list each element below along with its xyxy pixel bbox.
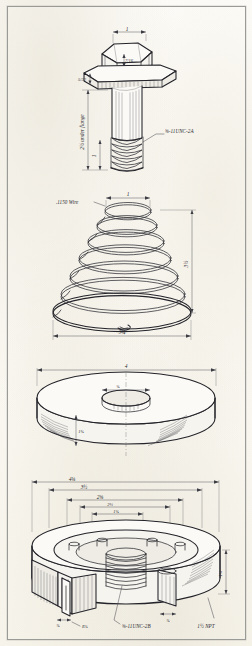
threaded-hub-drawing: 4⅛ 3½ 2⅝ 2¼ xyxy=(32,476,230,630)
dim-hub-3-label: 2⅝ xyxy=(97,494,104,500)
internal-thread-label: ⅝-11UNC-2B xyxy=(122,623,151,629)
dim-head-width-label: 1 xyxy=(126,26,129,32)
dim-spring-bottom-dia-label: 3¼ xyxy=(118,329,126,335)
dim-hub-4-label: 2¼ xyxy=(107,502,113,507)
note-wire-size: .1150 Wire xyxy=(56,199,105,206)
spring-helix-risers xyxy=(53,217,105,317)
dim-flange-thickness-label: 5/32 xyxy=(78,77,87,82)
dim-slot-width-label: ⅜ xyxy=(56,623,60,628)
dim-hub-height-label: 1¾ xyxy=(218,571,223,577)
dim-spring-bottom-dia: 3¼ xyxy=(53,320,191,340)
hex-bolt-drawing: 1 7/16 xyxy=(78,26,194,172)
dim-spring-top-dia-label: 1 xyxy=(127,191,130,197)
hub-slot-detail xyxy=(62,578,70,616)
note-thread-spec-2a: ⅝-11UNC-2A xyxy=(143,128,194,142)
panel-threaded-hub: 4⅛ 3½ 2⅝ 2¼ xyxy=(10,474,242,640)
dim-boss-width-label: ⅜ xyxy=(166,618,170,623)
dim-disk-thickness-label: 1⅛ xyxy=(78,429,84,434)
dim-head-width: 1 xyxy=(113,26,146,44)
dim-hub-5-label: 1⅝ xyxy=(113,509,119,514)
bolt-shank xyxy=(112,86,142,141)
bolt-threads xyxy=(111,137,143,171)
dim-boss-width: ⅜ xyxy=(160,612,176,623)
dim-hub-1-label: 4⅛ xyxy=(69,476,76,482)
conical-spring-drawing: 1 .1150 Wire xyxy=(53,191,196,340)
dim-slot-width: ⅜ R⅜ xyxy=(56,618,88,629)
dim-under-flange-label: 2½ under flange xyxy=(79,114,85,150)
panel-conical-spring: 1 .1150 Wire xyxy=(10,180,242,348)
drawing-sheet: 1 7/16 xyxy=(0,0,252,646)
disk-drawing: 4 xyxy=(37,363,216,456)
thread-spec-2a-label: ⅝-11UNC-2A xyxy=(165,128,194,134)
dim-spring-height: 3½ xyxy=(160,210,196,313)
dim-disk-od-label: 4 xyxy=(125,363,128,369)
spring-coils xyxy=(53,203,191,332)
dim-hub-2-label: 3½ xyxy=(80,484,88,490)
panel-disk: 4 xyxy=(10,352,242,476)
pipe-thread-label: 1½ NPT xyxy=(197,623,215,629)
dim-thread-length-label: 1 xyxy=(91,154,97,157)
wire-size-label: .1150 Wire xyxy=(56,199,79,205)
hub-boss-right xyxy=(158,568,176,606)
dim-spring-top-dia: 1 xyxy=(106,191,150,208)
note-pipe-thread: 1½ NPT xyxy=(197,598,215,629)
dim-thread-length: 1 xyxy=(91,140,102,170)
panel-hex-bolt: 1 7/16 xyxy=(10,10,242,178)
dim-spring-height-label: 3½ xyxy=(183,261,189,269)
dim-head-height-label: 7/16 xyxy=(125,58,134,63)
radius-note-label: R⅜ xyxy=(81,624,89,629)
